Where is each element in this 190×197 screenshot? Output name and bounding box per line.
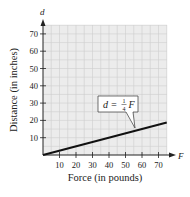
y-tick-label: 50: [30, 64, 39, 74]
x-axis-arrow-icon: [169, 153, 176, 158]
equation-lhs: d =: [103, 99, 117, 110]
x-tick-label: 70: [154, 160, 163, 170]
y-axis-var: d: [40, 7, 45, 17]
y-axis-label: Distance (in inches): [8, 48, 20, 132]
y-tick-label: 10: [30, 133, 39, 143]
y-tick-label: 70: [30, 29, 39, 39]
x-axis-var: F: [177, 151, 184, 161]
x-tick-label: 10: [55, 160, 64, 170]
x-tick-label: 20: [72, 160, 81, 170]
plot-area: [43, 25, 167, 155]
y-tick-label: 40: [30, 81, 39, 91]
equation-rhs: F: [128, 99, 136, 110]
y-tick-label: 20: [30, 115, 39, 125]
chart: 10203040506070 10203040506070 F d Force …: [0, 0, 190, 197]
fraction-denominator: 4: [123, 106, 126, 112]
y-tick-label: 60: [30, 46, 39, 56]
y-tick-label: 30: [30, 98, 39, 108]
x-axis-label: Force (in pounds): [68, 172, 143, 184]
y-axis-arrow-icon: [41, 19, 46, 26]
x-tick-label: 60: [138, 160, 147, 170]
x-tick-label: 50: [121, 160, 130, 170]
fraction-numerator: 1: [123, 98, 126, 104]
x-tick-label: 30: [88, 160, 97, 170]
x-tick-label: 40: [105, 160, 114, 170]
